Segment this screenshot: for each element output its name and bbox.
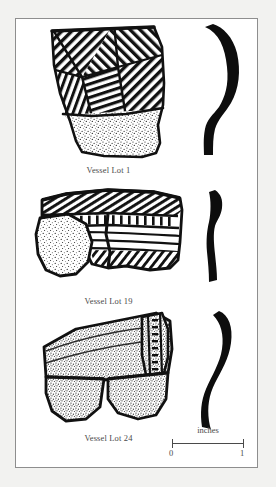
sherd-drawing-vessel-lot-24 (30, 307, 190, 429)
scale-bar: inches 0 1 (168, 425, 248, 459)
figure-caption-vessel-lot-1: Vessel Lot 1 (16, 165, 201, 175)
scale-bar-label-min: 0 (169, 448, 173, 458)
sherd-drawing-vessel-lot-1 (30, 21, 190, 161)
scale-bar-tick-max (243, 439, 244, 448)
figure-row-vessel-lot-19: Vessel Lot 19 (16, 184, 259, 312)
profile-section-vessel-lot-1 (189, 23, 251, 159)
scale-bar-label-max: 1 (240, 448, 244, 458)
figure-caption-vessel-lot-19: Vessel Lot 19 (16, 296, 201, 306)
profile-section-vessel-lot-19 (189, 186, 251, 286)
figure-row-vessel-lot-1: Vessel Lot 1 (16, 21, 259, 181)
profile-section-vessel-lot-24 (189, 309, 251, 431)
scale-bar-tick-min (172, 439, 173, 448)
sherd-drawing-vessel-lot-19 (30, 184, 190, 292)
scale-bar-unit-label: inches (168, 425, 248, 435)
scale-bar-rule (172, 439, 244, 448)
scale-bar-rule-line (172, 443, 244, 444)
illustration-plate: Vessel Lot 1 (15, 18, 258, 468)
